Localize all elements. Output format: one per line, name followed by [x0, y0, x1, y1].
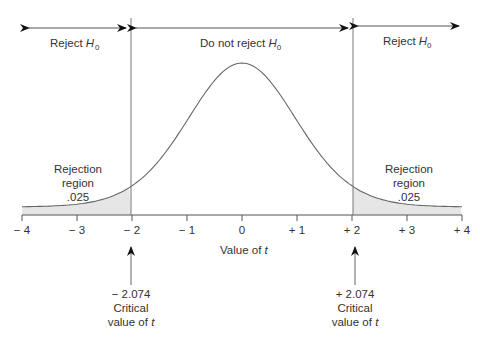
reject-right-label: Reject H0: [383, 34, 432, 53]
rejection-region-left-label: Rejection region .025: [50, 162, 106, 204]
h-symbol: H: [268, 37, 276, 49]
critical-value-right-label: + 2.074 Critical value of t: [325, 287, 385, 329]
do-not-reject-label: Do not reject H0: [200, 36, 281, 55]
critical-value-left-label: − 2.074 Critical value of t: [101, 287, 161, 329]
tick-label: − 4: [14, 224, 30, 236]
tick-label: − 3: [69, 224, 85, 236]
rejection-region-right-label: Rejection region .025: [381, 162, 437, 204]
tick-label: + 3: [399, 224, 415, 236]
h-symbol: H: [86, 37, 94, 49]
tick-label: + 1: [289, 224, 305, 236]
tick-label: + 2: [344, 224, 360, 236]
tick-label: 0: [239, 224, 245, 236]
tick-label: − 2: [124, 224, 140, 236]
tick-label: + 4: [454, 224, 470, 236]
x-axis-label: Value of t: [220, 243, 268, 257]
reject-left-label: Reject H 0: [50, 36, 100, 55]
tick-marks: [22, 215, 462, 221]
tick-label: − 1: [179, 224, 195, 236]
h-symbol: H: [419, 35, 427, 47]
